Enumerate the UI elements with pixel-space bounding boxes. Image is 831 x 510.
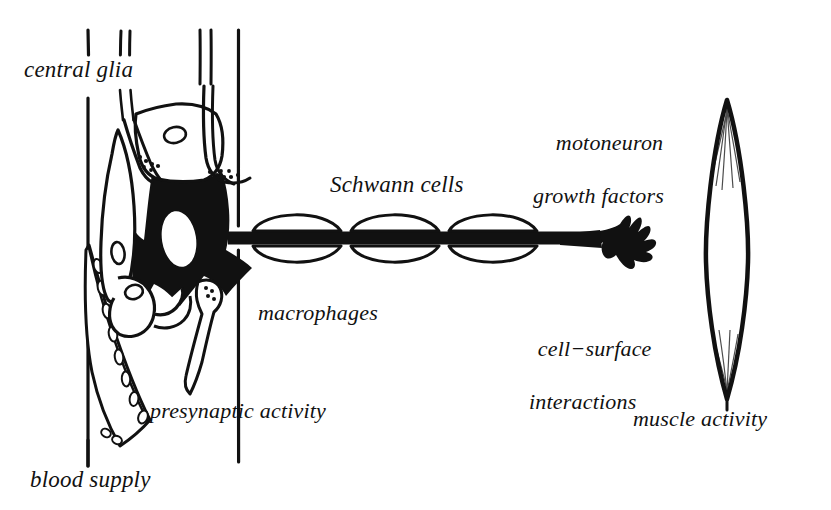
schwann-cell-upper-3 [449, 215, 537, 231]
label-cell-surface-line2: interactions [515, 389, 652, 416]
schwann-cell-lower-3 [449, 246, 537, 262]
label-motoneuron-growth-factors: motoneuron growth factors [533, 103, 664, 264]
label-central-glia: central glia [24, 56, 133, 84]
label-blood-supply: blood supply [30, 466, 151, 494]
muscle-fiber [706, 100, 748, 399]
schwann-cell-upper-2 [351, 215, 439, 231]
schwann-cell-lower-1 [253, 246, 341, 262]
schwann-cell-upper-1 [253, 215, 341, 231]
label-motoneuron-line2: growth factors [533, 183, 664, 210]
label-presynaptic-activity: presynaptic activity [150, 398, 326, 425]
cns-boundary-line-mid [200, 30, 211, 84]
label-macrophages: macrophages [258, 300, 378, 327]
figure-root: central glia blood supply presynaptic ac… [0, 0, 831, 510]
label-muscle-activity: muscle activity [633, 406, 767, 433]
label-schwann-cells: Schwann cells [330, 171, 464, 199]
label-cell-surface-interactions: cell−surface interactions [515, 309, 652, 470]
schwann-cell-lower-2 [351, 246, 439, 262]
label-cell-surface-line1: cell−surface [538, 336, 652, 361]
label-motoneuron-line1: motoneuron [556, 130, 664, 155]
